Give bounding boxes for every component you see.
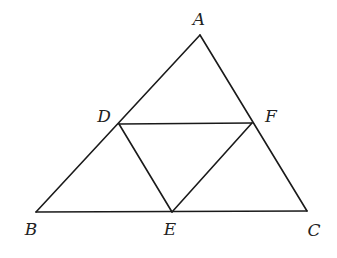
label-d: D [96,106,111,126]
label-c: C [307,220,320,240]
label-a: A [191,9,205,29]
label-b: B [24,219,38,239]
segment-ef [172,123,252,212]
segment-df [119,123,252,124]
triangle-diagram: A B C D E F [0,0,337,258]
segment-de [119,124,172,212]
vertex-labels: A B C D E F [24,9,321,240]
label-f: F [264,106,278,126]
label-e: E [163,219,177,239]
